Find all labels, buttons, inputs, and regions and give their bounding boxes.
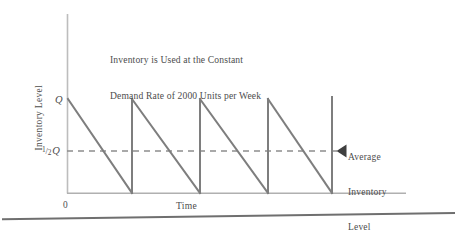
callout-line-3: Level bbox=[348, 222, 387, 234]
demand-rate-annotation: Inventory is Used at the Constant Demand… bbox=[110, 31, 261, 125]
half-fraction: 1/2 bbox=[42, 146, 51, 156]
callout-line-1: Average bbox=[348, 152, 387, 164]
fraction-denominator: 2 bbox=[48, 148, 52, 157]
inventory-level-figure: Inventory is Used at the Constant Demand… bbox=[0, 0, 460, 236]
annotation-line-2: Demand Rate of 2000 Units per Week bbox=[110, 90, 261, 102]
y-tick-label-q: Q bbox=[55, 94, 63, 107]
callout-line-2: Inventory bbox=[348, 187, 387, 199]
x-axis-origin-label: 0 bbox=[63, 200, 68, 211]
depletion-ramp-4 bbox=[268, 99, 332, 193]
average-inventory-callout: Average Inventory Level bbox=[348, 129, 387, 236]
y-tick-label-half-q: 1/2Q bbox=[42, 145, 60, 158]
half-q-symbol: Q bbox=[52, 145, 60, 156]
page-edge-rule bbox=[2, 213, 455, 219]
average-level-arrowhead-icon bbox=[337, 145, 347, 158]
annotation-line-1: Inventory is Used at the Constant bbox=[110, 54, 261, 66]
x-axis-title: Time bbox=[176, 200, 197, 212]
